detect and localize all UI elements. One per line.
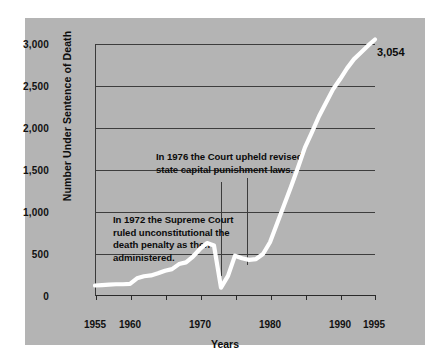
y-tick-label-500: 500: [0, 250, 49, 260]
x-tick-1970: [201, 295, 202, 300]
x-tick-1960: [131, 295, 132, 300]
x-tick-label-1995: 1995: [351, 320, 397, 330]
x-tick-1980: [271, 295, 272, 300]
x-tick-1965: [166, 295, 167, 300]
gridline-3000: [96, 44, 375, 45]
x-tick-1975: [236, 295, 237, 300]
annotation-1976-line2: state capital punishment laws.: [156, 164, 303, 177]
annotation-1976-line1: In 1976 the Court upheld revised: [156, 151, 303, 164]
annotation-1972: In 1972 the Supreme Court ruled unconsti…: [113, 214, 233, 265]
end-value-label: 3,054: [377, 46, 405, 58]
y-tick-label-1000: 1,000: [0, 208, 49, 218]
y-tick-label-0: 0: [0, 292, 49, 302]
x-tick-1985: [306, 295, 307, 300]
gridline-2000: [96, 128, 375, 129]
x-tick-1955: [96, 295, 97, 300]
x-tick-label-1970: 1970: [177, 320, 223, 330]
x-tick-label-1960: 1960: [107, 320, 153, 330]
annotation-1972-line3: death penalty as then: [113, 239, 233, 252]
y-axis-title: Number Under Sentence of Death: [61, 11, 73, 221]
y-tick-label-2500: 2,500: [0, 82, 49, 92]
x-tick-1995: [375, 295, 376, 300]
y-tick-label-1500: 1,500: [0, 166, 49, 176]
x-axis-title: Years: [25, 338, 425, 350]
annotation-1972-line1: In 1972 the Supreme Court: [113, 214, 233, 227]
y-tick-label-2000: 2,000: [0, 124, 49, 134]
gridline-2500: [96, 86, 375, 87]
y-tick-label-3000: 3,000: [0, 40, 49, 50]
x-tick-1990: [341, 295, 342, 300]
annotation-1972-line2: ruled unconstitutional the: [113, 227, 233, 240]
x-tick-label-1980: 1980: [247, 320, 293, 330]
annotation-1976: In 1976 the Court upheld revised state c…: [156, 151, 303, 176]
chart-panel: Number Under Sentence of Death 3,000 2,5…: [25, 18, 425, 345]
gridline-1000: [96, 212, 375, 213]
chart-figure: Number Under Sentence of Death 3,000 2,5…: [0, 0, 445, 362]
annotation-1972-line4: administered.: [113, 252, 233, 265]
leader-line-1976: [247, 178, 248, 265]
